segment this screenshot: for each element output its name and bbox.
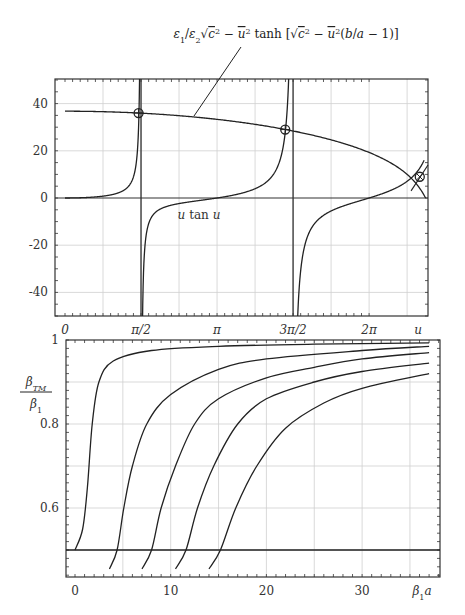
y-tick-label: 0.6 [40,501,59,515]
bottom-grid [66,340,440,577]
mode-curve [75,343,429,550]
svg-text:βTM: βTM [25,375,47,393]
y-tick-label: 1 [51,333,59,347]
bottom-plot-frame [66,340,440,577]
intersection-marker [281,125,290,134]
y-tick-label: 0 [40,191,48,205]
x-tick-label: 3π/2 [279,323,306,337]
y-tick-label: 0.8 [40,417,59,431]
y-tick-label: -20 [29,238,48,252]
tanh-curve [65,111,426,198]
intersection-marker [134,109,143,118]
x-tick-label: 0 [71,584,79,598]
mode-curve [109,346,429,569]
x-tick-label: 10 [163,584,178,598]
x-axis-label: u [414,323,422,337]
y-tick-label: 40 [33,97,48,111]
x-tick-label: 20 [259,584,274,598]
utanu-curve [294,160,424,339]
svg-text:β1: β1 [29,397,42,415]
x-tick-label: 0 [61,323,69,337]
x-tick-label: π/2 [130,323,151,337]
curve-label-utanu: u tan u [178,208,221,222]
x-tick-label: 30 [354,584,369,598]
top-chart: 0π/2π3π/22πu40200-20-40ε1/ε2√c2 − u2 tan… [29,27,428,340]
formula-annotation: ε1/ε2√c2 − u2 tanh [√c2 − u2(b/a − 1)] [173,27,398,45]
figure: 0π/2π3π/22πu40200-20-40ε1/ε2√c2 − u2 tan… [0,0,465,615]
annotation-leader [194,47,241,116]
x-axis-label: β1a [411,584,431,602]
mode-curve [209,374,429,569]
x-tick-label: 2π [360,323,378,337]
y-tick-label: -40 [29,285,48,299]
y-axis-label: βTMβ1 [20,375,52,415]
x-tick-label: π [212,323,222,337]
bottom-chart: 010203010.80.6β1aβTMβ1 [20,333,440,602]
y-tick-label: 20 [33,144,48,158]
